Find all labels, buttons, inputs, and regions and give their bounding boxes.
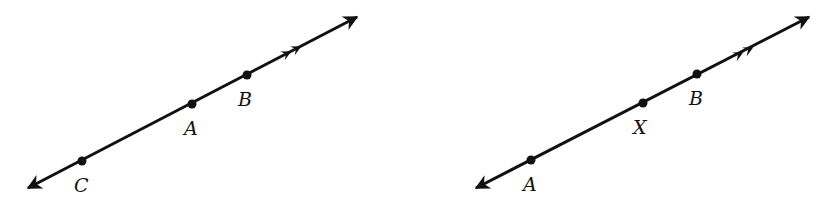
point-b — [243, 71, 252, 80]
point-a — [188, 100, 197, 109]
point-x — [639, 99, 648, 108]
point-label-b: B — [237, 88, 252, 110]
figure-left: CAB — [28, 17, 357, 196]
point-label-b: B — [688, 87, 703, 109]
point-c — [78, 157, 87, 166]
point-label-x: X — [631, 116, 648, 138]
figure-right: AXB — [476, 17, 809, 195]
point-label-a: A — [182, 117, 198, 139]
point-a — [527, 156, 536, 165]
point-b — [693, 70, 702, 79]
point-label-a: A — [521, 173, 537, 195]
geometry-diagram: CAB AXB — [0, 0, 833, 212]
point-label-c: C — [74, 174, 89, 196]
